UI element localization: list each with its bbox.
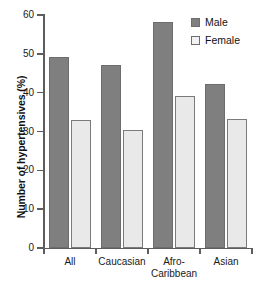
legend-item-female[interactable]: Female xyxy=(191,33,259,48)
x-tick-4 xyxy=(251,248,253,254)
bar-caucasian-female xyxy=(123,130,144,248)
x-label-line: Asian xyxy=(213,256,238,267)
male-swatch-icon xyxy=(191,18,200,27)
bar-afro-caribbean-male xyxy=(153,22,174,248)
x-label-line: Afro- xyxy=(163,256,185,267)
y-tick-label-30: 30 xyxy=(0,127,34,137)
x-tick-2 xyxy=(147,248,149,254)
x-axis-label-afro-caribbean: Afro-Caribbean xyxy=(148,256,200,279)
y-tick-60 xyxy=(37,14,43,16)
x-tick-3 xyxy=(199,248,201,254)
legend-label-male: Male xyxy=(205,17,228,28)
x-axis-label-all: All xyxy=(44,256,96,268)
y-tick-label-60: 60 xyxy=(0,10,34,20)
y-tick-label-0: 0 xyxy=(0,243,34,253)
x-label-line: Caribbean xyxy=(148,268,200,280)
y-tick-40 xyxy=(37,92,43,94)
x-label-line: Caucasian xyxy=(98,256,145,267)
y-tick-10 xyxy=(37,208,43,210)
y-tick-50 xyxy=(37,53,43,55)
female-swatch-icon xyxy=(191,36,200,45)
x-label-line: All xyxy=(64,256,75,267)
chart-legend: Male Female xyxy=(191,15,259,51)
y-tick-label-50: 50 xyxy=(0,49,34,59)
bar-all-male xyxy=(49,57,70,248)
legend-item-male[interactable]: Male xyxy=(191,15,259,30)
x-axis-label-asian: Asian xyxy=(200,256,252,268)
x-tick-1 xyxy=(95,248,97,254)
bar-all-female xyxy=(71,120,92,248)
bar-chart: Number of hypertensives (%) 010203040506… xyxy=(0,0,261,281)
bar-caucasian-male xyxy=(101,65,122,248)
y-tick-20 xyxy=(37,170,43,172)
bar-afro-caribbean-female xyxy=(175,96,196,248)
bar-asian-female xyxy=(227,119,248,248)
x-axis-label-caucasian: Caucasian xyxy=(96,256,148,268)
y-tick-30 xyxy=(37,131,43,133)
x-tick-0 xyxy=(43,248,45,254)
y-tick-label-40: 40 xyxy=(0,88,34,98)
y-tick-label-10: 10 xyxy=(0,204,34,214)
y-tick-label-20: 20 xyxy=(0,165,34,175)
y-tick-0 xyxy=(37,247,43,249)
y-axis-line xyxy=(43,14,45,249)
bar-asian-male xyxy=(205,84,226,248)
legend-label-female: Female xyxy=(205,35,240,46)
